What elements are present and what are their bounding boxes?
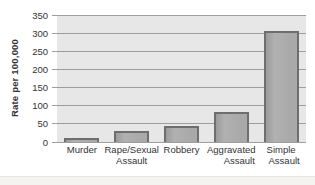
y-axis-tick-label: 250	[0, 46, 48, 57]
bar-robbery	[164, 126, 199, 142]
y-axis-tick-label: 300	[0, 28, 48, 39]
y-axis-tick-label: 150	[0, 82, 48, 93]
page-edge-strip	[0, 176, 315, 185]
bar-rape-sexual-assault	[114, 131, 149, 142]
gridline	[52, 15, 306, 16]
y-axis-tick-label: 100	[0, 100, 48, 111]
bar-aggravated-assault	[214, 112, 249, 142]
plot-area	[57, 15, 306, 142]
x-axis-label-line: Assault	[251, 156, 315, 167]
x-axis-label-line: Assault	[99, 156, 165, 167]
bar-simple-assault	[264, 31, 299, 142]
y-axis-tick-label: 0	[0, 137, 48, 148]
bar-chart-figure: Rate per 100,000 050100150200250300350 M…	[0, 0, 315, 185]
y-axis-tick-label: 200	[0, 64, 48, 75]
x-axis-labels: MurderRape/SexualAssaultRobberyAggravate…	[57, 145, 306, 175]
x-axis-label: SimpleAssault	[248, 145, 314, 166]
y-axis-tick-label: 50	[0, 118, 48, 129]
bar-murder	[64, 138, 99, 142]
y-axis-tick-label: 350	[0, 10, 48, 21]
